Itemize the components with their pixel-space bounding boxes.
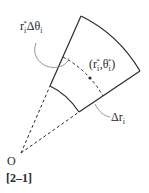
inner-arc (50, 86, 79, 112)
arc-length-theta-sub: i (40, 26, 42, 35)
point-label: (ri*,θi*) (89, 58, 115, 73)
arc-length-label: ri*Δθi (20, 20, 42, 35)
arc-length-delta-theta: Δθ (27, 19, 40, 33)
delta-r-text: Δr (111, 110, 123, 124)
origin-label: O (7, 155, 16, 167)
point-close: ) (111, 57, 115, 71)
radial-edge-upper (50, 16, 81, 86)
delta-r-sub: i (123, 117, 125, 126)
radial-edge-lower (79, 71, 140, 112)
figure-number: [2–1] (6, 172, 32, 184)
callout-delta-r (95, 104, 110, 117)
delta-r-label: Δri (111, 111, 125, 126)
sample-point (88, 76, 91, 79)
